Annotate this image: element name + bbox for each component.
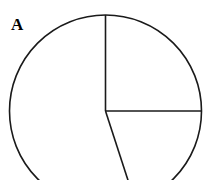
pie-slices <box>10 15 202 180</box>
pie-chart <box>0 0 210 180</box>
